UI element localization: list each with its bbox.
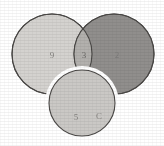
bottom-circle xyxy=(49,70,115,136)
venn-diagram-canvas xyxy=(0,0,164,146)
venn-diagram: 9 3 2 5 C xyxy=(0,0,164,146)
